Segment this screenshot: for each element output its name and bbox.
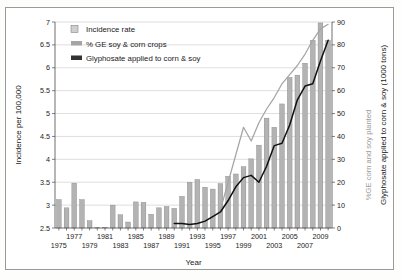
bar-2008 [310, 40, 315, 228]
legend-label: Glyphosate applied to corn & soy [86, 54, 201, 63]
xtick-label: 2005 [282, 232, 298, 241]
bar-1986 [141, 202, 146, 228]
xtick-label: 2007 [297, 241, 313, 250]
bar-1992 [187, 182, 192, 228]
incidence-glyphosate-chart: 2.533.544.555.566.5701020304050607080901… [5, 7, 394, 270]
ytick-label-right: 90 [337, 18, 345, 27]
bar-1990 [172, 208, 177, 228]
legend-swatch-incidence [71, 26, 78, 33]
bar-1993 [195, 179, 200, 228]
xtick-label: 1985 [128, 232, 144, 241]
bar-2003 [272, 127, 277, 228]
ytick-label-right: 20 [337, 178, 345, 187]
bar-1998 [233, 174, 238, 228]
bar-2000 [249, 159, 254, 228]
y-axis-title-left: Incidence per 100,000 [14, 85, 23, 165]
ytick-label-right: 0 [337, 224, 341, 233]
xtick-label: 1993 [189, 232, 205, 241]
bar-1982 [110, 205, 115, 228]
xtick-label: 1981 [97, 232, 113, 241]
x-axis-title: Year [185, 258, 202, 267]
bar-1977 [72, 183, 77, 228]
ytick-label-right: 80 [337, 40, 345, 49]
ytick-label: 3 [46, 201, 50, 210]
ytick-label: 5.5 [40, 86, 50, 95]
bar-1989 [164, 206, 169, 228]
xtick-label: 1979 [82, 241, 98, 250]
bar-1987 [149, 214, 154, 228]
bar-1976 [64, 208, 69, 228]
bar-2004 [280, 104, 285, 228]
ytick-label-right: 60 [337, 86, 345, 95]
y-axis-title-right-secondary: %GE corn and soy planted [364, 110, 373, 200]
ytick-label-right: 50 [337, 109, 345, 118]
bar-1984 [126, 222, 131, 228]
xtick-label: 2001 [251, 232, 267, 241]
ytick-label-right: 40 [337, 132, 345, 141]
xtick-label: 1999 [236, 241, 252, 250]
xtick-label: 1995 [205, 241, 221, 250]
ytick-label: 6 [46, 63, 50, 72]
xtick-label: 2009 [312, 232, 328, 241]
legend-swatch-ge-crops [71, 41, 82, 46]
legend-label: Incidence rate [86, 25, 135, 34]
bar-1995 [210, 189, 215, 228]
ytick-label-right: 30 [337, 155, 345, 164]
ytick-label: 7 [46, 18, 50, 27]
bar-2002 [264, 118, 269, 228]
ytick-label-right: 10 [337, 201, 345, 210]
bar-1988 [156, 208, 161, 228]
ytick-label: 4 [46, 155, 50, 164]
xtick-label: 1987 [143, 241, 159, 250]
chart-figure: 2.533.544.555.566.5701020304050607080901… [0, 0, 401, 280]
ytick-label: 4.5 [40, 132, 50, 141]
bar-2010 [326, 40, 331, 228]
xtick-label: 1983 [112, 241, 128, 250]
bar-2005 [287, 77, 292, 228]
bar-1999 [241, 167, 246, 228]
xtick-label: 1977 [66, 232, 82, 241]
ytick-label: 5 [46, 109, 50, 118]
bar-2001 [257, 145, 262, 228]
legend-label: % GE soy & corn crops [86, 40, 167, 49]
bar-1978 [80, 200, 85, 228]
legend-swatch-glyphosate [71, 56, 82, 61]
bar-1985 [133, 202, 138, 228]
xtick-label: 1991 [174, 241, 190, 250]
bar-2009 [318, 23, 323, 228]
bar-1979 [87, 221, 92, 228]
y-axis-title-right: Glyphosate applied to corn & soy (1000 t… [379, 45, 388, 205]
ytick-label: 3.5 [40, 178, 50, 187]
bar-1983 [118, 215, 123, 228]
ytick-label-right: 70 [337, 63, 345, 72]
xtick-label: 1997 [220, 232, 236, 241]
xtick-label: 1989 [159, 232, 175, 241]
xtick-label: 1975 [51, 241, 67, 250]
ytick-label: 6.5 [40, 40, 50, 49]
bar-1975 [56, 200, 61, 228]
xtick-label: 2003 [266, 241, 282, 250]
ytick-label: 2.5 [40, 224, 50, 233]
